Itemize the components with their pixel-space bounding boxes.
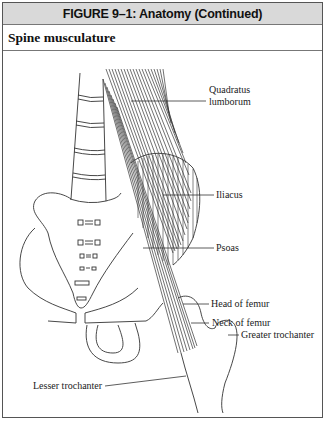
- label-greater-trochanter: Greater trochanter: [241, 329, 315, 340]
- figure-title: FIGURE 9–1: Anatomy (Continued): [3, 3, 322, 25]
- label-quadratus-line1: Quadratus: [209, 84, 250, 95]
- lumbar-spine: [70, 73, 106, 203]
- femur: [178, 296, 237, 413]
- label-lesser-trochanter: Lesser trochanter: [33, 380, 103, 391]
- pelvis: [20, 193, 163, 363]
- label-quadratus-line2: lumborum: [209, 96, 251, 107]
- label-psoas: Psoas: [216, 242, 239, 253]
- label-head-of-femur: Head of femur: [211, 298, 270, 309]
- spine-musculature-illustration: Quadratus lumborum Iliacus Psoas Head of…: [3, 50, 322, 417]
- label-iliacus: Iliacus: [216, 189, 243, 200]
- label-neck-of-femur: Neck of femur: [212, 317, 271, 328]
- section-title: Spine musculature: [3, 25, 322, 51]
- figure-frame: FIGURE 9–1: Anatomy (Continued) Spine mu…: [2, 2, 323, 418]
